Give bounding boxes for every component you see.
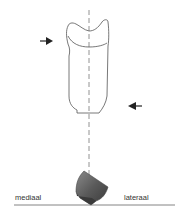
force-arrow-left-icon: [128, 102, 142, 110]
diagram-canvas: [0, 0, 184, 216]
label-mediaal: mediaal: [15, 193, 41, 202]
crown-inner-curve: [68, 36, 107, 47]
label-lateraal: lateraal: [124, 193, 149, 202]
shaded-block: [76, 171, 108, 205]
force-arrow-right-icon: [40, 37, 53, 45]
tooth-crown-outline: [67, 20, 109, 113]
